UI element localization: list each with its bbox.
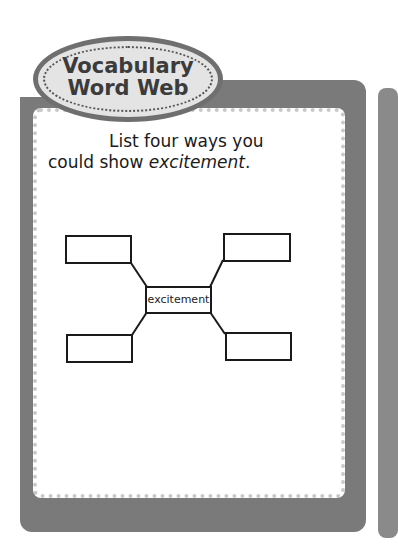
branch-box-bottom-left[interactable] — [66, 334, 133, 363]
branch-box-top-left[interactable] — [65, 235, 132, 264]
center-word-box: excitement — [145, 286, 212, 314]
branch-box-top-right[interactable] — [223, 233, 291, 262]
branch-box-bottom-right[interactable] — [225, 332, 292, 361]
